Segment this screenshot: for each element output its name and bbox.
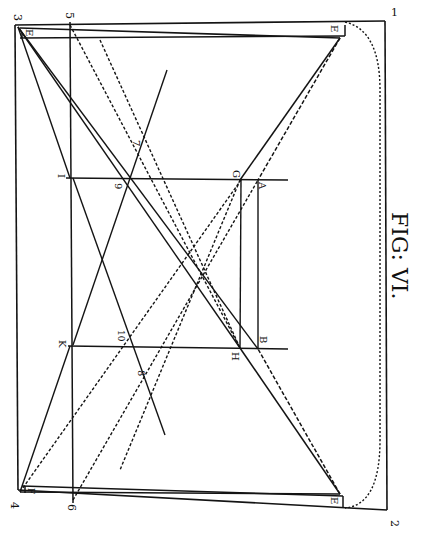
label-3: 3 <box>11 14 24 21</box>
label-10: 10 <box>116 330 126 342</box>
label-2: 2 <box>388 520 401 527</box>
line-I-A <box>66 178 288 180</box>
label-H: H <box>230 352 241 361</box>
line-G-H <box>240 180 241 348</box>
label-6: 6 <box>65 504 78 511</box>
inner-bands <box>20 25 345 508</box>
label-F: F <box>26 488 36 494</box>
label-A: A <box>257 181 268 190</box>
label-9: 9 <box>113 183 124 189</box>
label-4: 4 <box>8 502 21 509</box>
label-1: 1 <box>391 6 398 19</box>
label-7: 7 <box>131 140 142 146</box>
geometric-figure: FIG: VI. 1 2 3 4 5 6 7 8 9 10 E E E F I … <box>0 0 423 533</box>
point-labels: 1 2 3 4 5 6 7 8 9 10 E E E F I K G A H B <box>8 6 401 527</box>
label-E-top-right: E <box>329 25 340 32</box>
line-5-6 <box>70 22 73 503</box>
label-8: 8 <box>136 370 147 376</box>
line-K-B <box>68 346 288 349</box>
diagonals-bottom-left <box>20 180 258 500</box>
label-5: 5 <box>63 12 76 19</box>
diagonals-top-left <box>18 25 258 349</box>
label-G: G <box>231 170 242 178</box>
label-K: K <box>57 340 68 348</box>
label-B: B <box>258 336 269 343</box>
figure-title: FIG: VI. <box>387 212 412 300</box>
label-I: I <box>56 174 67 178</box>
cross-lines <box>73 40 240 470</box>
label-E-top-left: E <box>24 29 35 36</box>
dotted-curve <box>345 22 380 508</box>
label-E-bottom-right: E <box>329 497 340 504</box>
